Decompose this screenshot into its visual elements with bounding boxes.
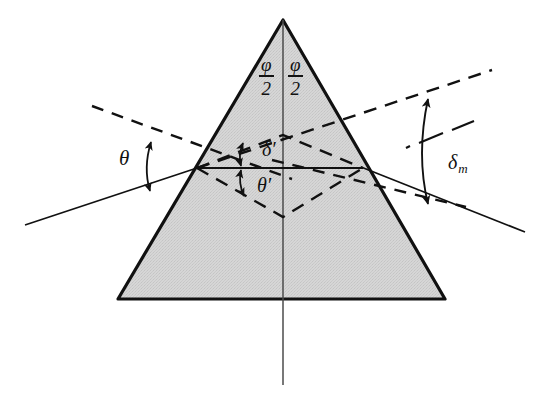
dash-dot-reference-line: [406, 121, 474, 148]
apex-half-angle-right-denominator: 2: [288, 78, 303, 98]
minimum-deviation-symbol: δ: [448, 151, 457, 173]
minimum-deviation-label: δm: [448, 152, 468, 175]
prism-body: [118, 20, 445, 299]
minimum-deviation-subscript: m: [457, 161, 467, 176]
delta-m-angle-arc: [422, 99, 428, 204]
apex-half-angle-left-numerator: φ: [259, 55, 274, 75]
apex-half-angle-left-label: φ 2: [259, 55, 274, 98]
fraction-bar: [259, 75, 274, 77]
internal-refraction-angle-label: θ′: [257, 175, 271, 195]
apex-half-angle-right-numerator: φ: [288, 55, 303, 75]
apex-half-angle-right-label: φ 2: [288, 55, 303, 98]
prism-diagram-figure: φ 2 φ 2 θ δ′ θ′ δm: [0, 0, 540, 402]
apex-half-angle-left-denominator: 2: [259, 78, 274, 98]
incidence-angle-label: θ: [119, 148, 129, 169]
fraction-bar: [288, 75, 303, 77]
internal-deviation-label: δ′: [262, 139, 276, 159]
